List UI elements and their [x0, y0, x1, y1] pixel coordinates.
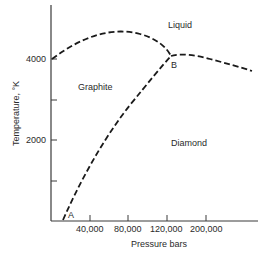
- diamond-liquid-curve: [171, 55, 252, 71]
- region-label-graphite: Graphite: [78, 83, 113, 92]
- region-label-liquid: Liquid: [168, 21, 192, 30]
- x-tick-label-80000: 80,000: [114, 225, 142, 234]
- y-axis-title: Temperature, °K: [12, 81, 21, 146]
- point-label-b: B: [171, 61, 177, 70]
- point-label-a: A: [68, 211, 74, 220]
- x-tick-label-200000: 200,000: [190, 225, 223, 234]
- phase-diagram: [0, 0, 266, 257]
- x-tick-label-40000: 40,000: [76, 225, 104, 234]
- y-tick-label-4000: 4000: [26, 55, 46, 64]
- x-axis-title: Pressure bars: [131, 240, 187, 249]
- y-tick-label-2000: 2000: [26, 136, 46, 145]
- region-label-diamond: Diamond: [171, 139, 207, 148]
- x-tick-label-120000: 120,000: [150, 225, 183, 234]
- graphite-diamond-curve: [63, 56, 171, 220]
- graphite-liquid-curve: [52, 32, 171, 59]
